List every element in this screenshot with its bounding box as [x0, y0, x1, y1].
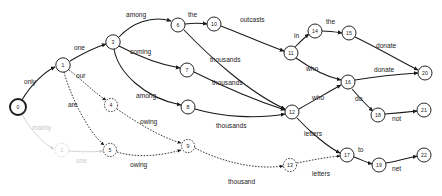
edge-3-to-6: [119, 19, 171, 37]
edge-label-16-20: donate: [374, 66, 395, 73]
edge-16-to-20: [355, 73, 418, 80]
edge-5-to-9: [117, 150, 181, 156]
word-lattice-diagram: onlymainlyoneourareoneamongcomingamongow…: [0, 0, 442, 196]
edge-label-1-3: one: [74, 44, 85, 51]
edge-label-6-12: thousands: [210, 56, 241, 63]
edge-label-3-8: among: [136, 92, 156, 100]
node-label-13: 13: [287, 162, 293, 168]
edge-label-3-6: among: [126, 11, 146, 19]
edge-label-14-15: the: [326, 18, 335, 25]
edge-label-17-19: to: [358, 146, 364, 153]
edge-label-3-7: coming: [130, 48, 152, 56]
node-label-19: 19: [376, 162, 382, 168]
edge-7-to-12: [194, 72, 285, 110]
edge-label-1-4: our: [76, 72, 86, 79]
edge-4-to-9: [117, 109, 181, 143]
edge-18-to-21: [385, 111, 417, 114]
node-label-21: 21: [421, 107, 427, 113]
node-label-6: 6: [177, 22, 180, 28]
node-label-8: 8: [187, 104, 190, 110]
node-label-2: 2: [61, 147, 64, 153]
lattice-canvas: onlymainlyoneourareoneamongcomingamongow…: [0, 0, 442, 196]
edge-label-5-9: owing: [130, 161, 148, 169]
node-label-3: 3: [112, 39, 115, 45]
node-label-20: 20: [422, 70, 428, 76]
edge-6-to-12: [184, 30, 285, 109]
edge-1-to-4: [69, 70, 106, 100]
node-label-11: 11: [288, 50, 293, 56]
edge-1-to-5: [64, 72, 104, 145]
node-label-18: 18: [375, 112, 381, 118]
edge-13-to-17: [297, 156, 340, 163]
node-label-4: 4: [110, 102, 113, 108]
node-label-17: 17: [344, 152, 350, 158]
edge-19-to-22: [386, 156, 417, 163]
edge-label-1-5: are: [68, 101, 78, 108]
edge-label-16-18: do: [355, 95, 363, 102]
node-label-9: 9: [187, 143, 190, 149]
edge-9-to-13: [195, 148, 283, 167]
edge-6-to-10: [185, 23, 207, 24]
edge-label-15-20: donate: [376, 42, 397, 49]
node-label-0: 0: [17, 104, 20, 110]
edge-label-6-10: the: [188, 11, 197, 18]
edge-label-0-1: only: [24, 78, 37, 86]
edge-label-19-22: net: [392, 165, 401, 172]
node-label-7: 7: [186, 67, 189, 73]
edge-10-to-11: [221, 26, 284, 51]
edge-label-12-17: letters: [304, 130, 323, 137]
edge-label-8-12: thousands: [216, 122, 247, 129]
node-label-1: 1: [62, 62, 65, 68]
edge-label-12-16: who: [311, 94, 324, 101]
edge-2-to-5: [69, 151, 103, 152]
edge-label-18-21: not: [392, 115, 401, 122]
node-label-16: 16: [345, 79, 351, 85]
edge-14-to-15: [322, 31, 342, 33]
node-label-10: 10: [211, 21, 217, 27]
edge-label-10-11: outcasts: [240, 16, 265, 23]
edge-label-7-12: thousands: [212, 79, 243, 86]
edge-label-13-17: letters: [312, 170, 331, 177]
nodes-layer: 012345678910111213141516171819202122: [10, 17, 432, 172]
edge-8-to-12: [195, 109, 285, 117]
node-label-14: 14: [312, 28, 318, 34]
edge-label-11-16: who: [305, 65, 318, 72]
edge-label-11-14: in: [294, 32, 299, 39]
node-label-5: 5: [109, 147, 112, 153]
edge-11-to-16: [296, 58, 341, 80]
node-label-15: 15: [346, 30, 352, 36]
edge-0-to-2: [22, 114, 54, 149]
node-label-12: 12: [289, 109, 295, 115]
edge-label-0-2: mainly: [32, 124, 52, 132]
edges-layer: [22, 19, 418, 167]
edge-label-2-5: one: [76, 157, 87, 164]
edge-17-to-19: [354, 157, 372, 164]
edge-label-9-13: thousand: [228, 178, 255, 185]
edge-label-4-9: owing: [140, 118, 158, 126]
node-label-22: 22: [421, 152, 427, 158]
